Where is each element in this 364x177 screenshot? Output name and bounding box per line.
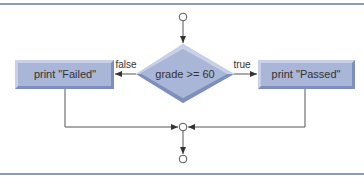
action-passed-node: print "Passed" <box>258 60 355 89</box>
final-state-node <box>179 155 187 163</box>
activity-diagram: grade >= 60 false true print "Failed" pr… <box>0 0 364 177</box>
initial-state-node <box>179 13 187 21</box>
action-failed-label: print "Failed" <box>34 68 96 80</box>
action-failed-node: print "Failed" <box>15 60 114 89</box>
flow-passed-to-merge <box>188 89 305 127</box>
merge-node <box>179 123 187 131</box>
decision-node: grade >= 60 <box>136 44 234 103</box>
guard-false-label: false <box>115 59 137 70</box>
guard-true-label: true <box>233 59 251 70</box>
action-passed-label: print "Passed" <box>272 68 341 80</box>
flow-failed-to-merge <box>65 89 178 127</box>
decision-label: grade >= 60 <box>155 68 214 80</box>
